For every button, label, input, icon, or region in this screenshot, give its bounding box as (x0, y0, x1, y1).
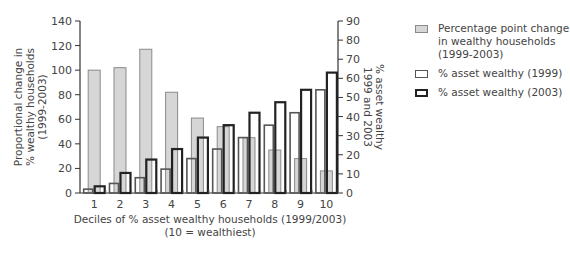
right-tick-label: 30 (346, 130, 360, 143)
legend-label: % asset wealthy (2003) (438, 86, 562, 99)
x-tick-label: 8 (271, 198, 278, 211)
right-tick-label: 40 (346, 111, 360, 124)
x-axis-label: Deciles of % asset wealthy households (1… (60, 213, 360, 226)
left-tick-label: 0 (65, 187, 72, 200)
left-tick-label: 120 (51, 40, 72, 53)
legend-item-2003: % asset wealthy (2003) (415, 86, 570, 99)
legend-swatch-1999 (415, 70, 428, 78)
left-tick-label: 140 (51, 15, 72, 28)
legend-label: Percentage point change in wealthy house… (438, 22, 569, 61)
x-tick-label: 9 (297, 198, 304, 211)
legend-swatch-2003 (415, 89, 428, 97)
right-tick-label: 90 (346, 15, 360, 28)
right-tick-label: 10 (346, 168, 360, 181)
x-tick-label: 1 (91, 198, 98, 211)
x-axis-title: Deciles of % asset wealthy households (1… (60, 213, 360, 239)
left-tick-label: 80 (58, 89, 72, 102)
bar-change (88, 70, 100, 193)
right-tick-label: 0 (346, 187, 353, 200)
x-tick-label: 4 (168, 198, 175, 211)
x-tick-label: 2 (116, 198, 123, 211)
left-tick-label: 20 (58, 162, 72, 175)
right-tick-label: 20 (346, 149, 360, 162)
right-axis-title: % asset wealthy1999 and 2003 (362, 64, 386, 150)
left-axis-title: Proportional change in% wealthy househol… (12, 48, 48, 166)
left-tick-label: 40 (58, 138, 72, 151)
legend-item-1999: % asset wealthy (1999) (415, 67, 570, 80)
left-tick-label: 60 (58, 113, 72, 126)
x-tick-label: 3 (142, 198, 149, 211)
right-tick-label: 60 (346, 72, 360, 85)
x-axis-sublabel: (10 = wealthiest) (60, 226, 360, 239)
x-tick-label: 7 (245, 198, 252, 211)
legend: Percentage point change in wealthy house… (415, 22, 570, 105)
legend-item-change: Percentage point change in wealthy house… (415, 22, 570, 61)
legend-label: % asset wealthy (1999) (438, 67, 562, 80)
x-tick-label: 6 (220, 198, 227, 211)
left-tick-label: 100 (51, 64, 72, 77)
right-tick-label: 80 (346, 34, 360, 47)
x-tick-label: 10 (319, 198, 333, 211)
right-tick-label: 70 (346, 53, 360, 66)
x-tick-label: 5 (194, 198, 201, 211)
legend-swatch-grey (415, 25, 428, 33)
right-tick-label: 50 (346, 91, 360, 104)
